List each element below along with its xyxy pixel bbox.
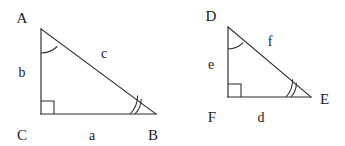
side-label-a: a: [89, 128, 96, 143]
similar-triangles-diagram: A B C a b c D E F: [0, 0, 345, 146]
geometry-figure: A B C a b c D E F: [0, 0, 345, 146]
vertex-label-d: D: [206, 8, 217, 24]
triangle-def: D E F d e f: [206, 8, 330, 125]
side-label-d: d: [258, 110, 265, 125]
vertex-label-c: C: [17, 127, 27, 143]
angle-arc-a: [41, 47, 57, 54]
vertex-label-a: A: [17, 10, 28, 26]
side-label-b: b: [19, 65, 26, 80]
vertex-label-f: F: [208, 109, 216, 125]
angle-arc-d: [228, 43, 243, 49]
vertex-label-b: B: [148, 127, 158, 143]
side-label-e: e: [208, 57, 214, 72]
right-angle-mark-f: [228, 84, 241, 97]
angle-arc-e-outer: [286, 79, 293, 97]
segment-ab-side-c: [41, 29, 156, 114]
right-angle-mark-c: [41, 101, 54, 114]
triangle-abc: A B C a b c: [17, 10, 158, 143]
side-label-c: c: [101, 46, 107, 61]
side-label-f: f: [268, 34, 273, 49]
vertex-label-e: E: [320, 91, 329, 107]
